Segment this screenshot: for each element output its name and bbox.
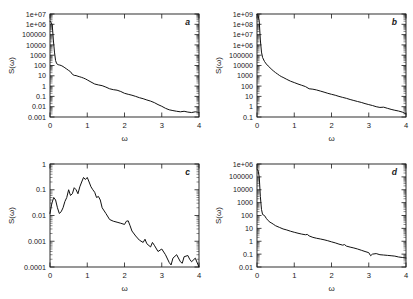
- x-tick-label: 0: [255, 121, 259, 130]
- y-axis-label: S(ω): [214, 207, 223, 224]
- y-axis-ticks: 0.11101001000100001000001e+061e+071e+081…: [229, 10, 406, 122]
- y-tick-label: 1: [42, 160, 46, 169]
- y-tick-label: 10000: [26, 41, 46, 50]
- x-tick-label: 0: [48, 271, 52, 280]
- y-tick-label: 0.001: [28, 237, 46, 246]
- y-tick-label: 1: [249, 102, 253, 111]
- x-tick-label: 0: [48, 121, 52, 130]
- y-tick-label: 1e+07: [233, 30, 253, 39]
- y-tick-label: 0.1: [36, 185, 46, 194]
- y-tick-label: 1000: [30, 51, 46, 60]
- y-tick-label: 0.1: [36, 92, 46, 101]
- y-tick-label: 1e+06: [233, 41, 253, 50]
- y-tick-label: 1: [42, 82, 46, 91]
- y-tick-label: 1e+09: [233, 10, 253, 19]
- x-tick-label: 0: [255, 271, 259, 280]
- panel-letter: d: [392, 167, 398, 177]
- y-minor-ticks: [257, 14, 406, 113]
- x-tick-label: 3: [160, 271, 164, 280]
- y-tick-label: 0.1: [243, 113, 253, 122]
- y-tick-label: 1e+07: [26, 10, 46, 19]
- spectrum-curve: [50, 177, 199, 267]
- y-tick-label: 100000: [229, 172, 253, 181]
- panel-letter: c: [185, 167, 190, 177]
- y-tick-label: 10000: [233, 61, 253, 70]
- y-tick-label: 0.001: [28, 113, 46, 122]
- panel-c: 0.00010.0010.010.1101234ωS(ω)c: [0, 150, 206, 299]
- panel-letter: a: [185, 17, 190, 27]
- x-tick-label: 2: [122, 271, 126, 280]
- panel-a: 0.0010.010.11101001000100001000001e+061e…: [0, 0, 206, 149]
- figure-container: 0.0010.010.11101001000100001000001e+061e…: [0, 0, 413, 299]
- y-tick-label: 0.0001: [24, 263, 46, 272]
- x-tick-label: 3: [160, 121, 164, 130]
- plot-b: 0.11101001000100001000001e+061e+071e+081…: [207, 0, 413, 149]
- x-axis-ticks: 01234: [48, 164, 201, 280]
- y-tick-label: 1000: [237, 71, 253, 80]
- y-tick-label: 0.01: [239, 263, 253, 272]
- y-tick-label: 1e+06: [233, 160, 253, 169]
- x-tick-label: 1: [292, 121, 296, 130]
- x-tick-label: 3: [367, 271, 371, 280]
- plot-a: 0.0010.010.11101001000100001000001e+061e…: [0, 0, 206, 149]
- panel-d: 0.010.11101001000100001000001e+0601234ωS…: [207, 150, 413, 299]
- y-tick-label: 100000: [22, 30, 46, 39]
- plot-c: 0.00010.0010.010.1101234ωS(ω)c: [0, 150, 206, 299]
- x-tick-label: 1: [85, 271, 89, 280]
- y-tick-label: 0.01: [32, 102, 46, 111]
- spectrum-curve: [257, 14, 406, 113]
- y-tick-label: 100000: [229, 51, 253, 60]
- x-tick-label: 4: [197, 121, 201, 130]
- x-tick-label: 2: [329, 271, 333, 280]
- y-tick-label: 10: [245, 224, 253, 233]
- y-tick-label: 1e+06: [26, 20, 46, 29]
- x-axis-label: ω: [121, 284, 127, 293]
- y-axis-label: S(ω): [214, 57, 223, 74]
- y-minor-ticks: [257, 165, 406, 264]
- panel-b: 0.11101001000100001000001e+061e+071e+081…: [207, 0, 413, 149]
- plot-d: 0.010.11101001000100001000001e+0601234ωS…: [207, 150, 413, 299]
- y-tick-label: 100: [241, 211, 253, 220]
- x-tick-label: 4: [404, 271, 408, 280]
- y-tick-label: 100: [241, 82, 253, 91]
- y-tick-label: 10000: [233, 185, 253, 194]
- x-axis-ticks: 01234: [255, 14, 408, 130]
- y-tick-label: 0.1: [243, 250, 253, 259]
- plot-frame: [50, 164, 199, 267]
- y-tick-label: 100: [34, 61, 46, 70]
- y-axis-label: S(ω): [7, 207, 16, 224]
- x-tick-label: 2: [329, 121, 333, 130]
- y-tick-label: 0.01: [32, 211, 46, 220]
- y-minor-ticks: [50, 14, 199, 113]
- spectrum-curve: [50, 21, 199, 112]
- spectrum-curve: [257, 169, 406, 258]
- x-tick-label: 2: [122, 121, 126, 130]
- plot-frame: [257, 164, 406, 267]
- x-axis-label: ω: [121, 134, 127, 143]
- y-axis-ticks: 0.0010.010.11101001000100001000001e+061e…: [22, 10, 199, 122]
- panel-letter: b: [392, 17, 397, 27]
- x-tick-label: 1: [292, 271, 296, 280]
- x-axis-label: ω: [328, 284, 334, 293]
- y-tick-label: 1000: [237, 198, 253, 207]
- plot-frame: [257, 14, 406, 117]
- y-axis-label: S(ω): [7, 57, 16, 74]
- x-tick-label: 4: [197, 271, 201, 280]
- y-tick-label: 10: [245, 92, 253, 101]
- y-tick-label: 1: [249, 237, 253, 246]
- y-tick-label: 1e+08: [233, 20, 253, 29]
- y-tick-label: 10: [38, 71, 46, 80]
- y-minor-ticks: [50, 165, 199, 259]
- x-axis-ticks: 01234: [255, 164, 408, 280]
- plot-frame: [50, 14, 199, 117]
- x-tick-label: 4: [404, 121, 408, 130]
- x-tick-label: 1: [85, 121, 89, 130]
- x-tick-label: 3: [367, 121, 371, 130]
- x-axis-label: ω: [328, 134, 334, 143]
